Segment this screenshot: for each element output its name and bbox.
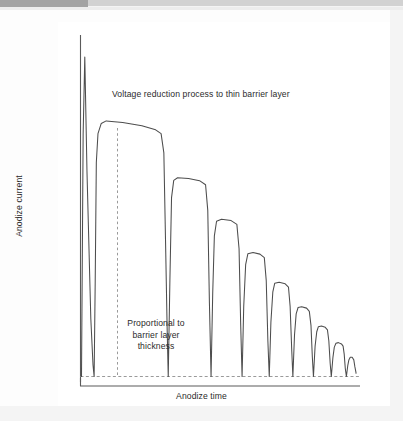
x-axis-line [81, 378, 361, 386]
barrier-thickness-annotation: Proportional to barrier layer thickness [113, 318, 199, 353]
scan-bar-light [88, 0, 403, 6]
barrier-thickness-line-3: thickness [113, 341, 199, 353]
x-axis-label: Anodize time [0, 390, 403, 402]
voltage-reduction-annotation: Voltage reduction process to thin barrie… [112, 88, 290, 100]
anodize-current-chart [0, 10, 403, 410]
barrier-thickness-line-1: Proportional to [113, 318, 199, 330]
barrier-thickness-line-2: barrier layer [113, 330, 199, 342]
y-axis-label: Anodize current [13, 156, 25, 256]
figure-root: Voltage reduction process to thin barrie… [0, 0, 403, 421]
scan-bar-dark [0, 0, 88, 7]
